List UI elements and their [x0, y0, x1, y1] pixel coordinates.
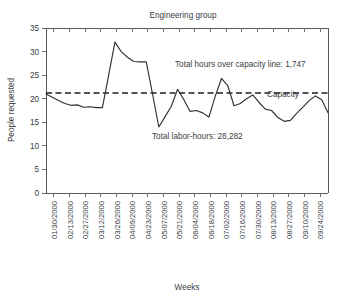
annotation-capacity-label: Capacity [267, 90, 300, 99]
y-axis: 05101520253035 [30, 24, 46, 198]
x-tick-label: 08/27/2000 [285, 201, 294, 239]
x-tick-label: 01/30/2000 [50, 201, 59, 239]
x-tick-label: 02/13/2000 [66, 201, 75, 239]
x-tick-label-group: 01/30/200002/13/200002/27/200003/12/2000… [50, 201, 325, 239]
line-chart: Engineering group People requested Weeks… [0, 0, 359, 299]
y-axis-label: People requested [7, 77, 16, 142]
x-axis-label: Weeks [175, 283, 200, 292]
x-tick-label: 04/23/2000 [144, 201, 153, 239]
y-tick-label: 0 [34, 189, 39, 198]
y-tick-label: 35 [30, 24, 40, 33]
x-tick-label: 07/16/2000 [238, 201, 247, 239]
y-tick-label: 30 [30, 48, 40, 57]
x-tick-label: 09/24/2000 [316, 201, 325, 239]
y-tick-group: 05101520253035 [30, 24, 46, 198]
y-tick-label: 5 [34, 165, 39, 174]
x-tick-label: 05/07/2000 [160, 201, 169, 239]
y-tick-label: 25 [30, 71, 40, 80]
annotation-total-labor-hours: Total labor-hours: 28,282 [152, 132, 243, 141]
x-tick-label: 08/13/2000 [269, 201, 278, 239]
chart-container: Engineering group People requested Weeks… [0, 0, 359, 299]
x-tick-label: 07/30/2000 [254, 201, 263, 239]
x-tick-label: 05/21/2000 [175, 201, 184, 239]
people-requested-series-line [46, 42, 328, 127]
x-tick-group [54, 28, 320, 197]
x-tick-label: 02/27/2000 [81, 201, 90, 239]
x-tick-label: 06/04/2000 [191, 201, 200, 239]
y-tick-label: 15 [30, 118, 40, 127]
annotation-total-hours-over-capacity: Total hours over capacity line: 1,747 [175, 60, 306, 69]
x-tick-label: 03/12/2000 [97, 201, 106, 239]
chart-title: Engineering group [150, 11, 217, 20]
y-tick-label: 10 [30, 142, 40, 151]
x-tick-label: 09/10/2000 [301, 201, 310, 239]
x-tick-label: 04/09/2000 [128, 201, 137, 239]
x-tick-label: 03/26/2000 [113, 201, 122, 239]
y-tick-label: 20 [30, 95, 40, 104]
x-tick-label: 07/02/2000 [222, 201, 231, 239]
x-tick-label: 06/18/2000 [207, 201, 216, 239]
x-axis [46, 28, 328, 197]
